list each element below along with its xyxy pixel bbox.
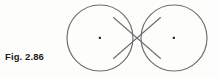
right-circle-center-dot — [173, 37, 175, 39]
left-circle-center-dot — [99, 37, 101, 39]
figure-container: Fig. 2.86 — [0, 0, 219, 78]
figure-caption: Fig. 2.86 — [5, 51, 44, 62]
two-tangent-circles-diagram — [0, 0, 219, 78]
